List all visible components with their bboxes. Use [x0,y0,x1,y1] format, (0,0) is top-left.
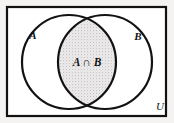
venn-diagram-canvas: A B A ∩ B U [0,0,174,123]
universe-label: U [156,100,165,112]
intersection-label: A ∩ B [72,56,102,68]
set-a-label: A [28,29,36,41]
venn-diagram-figure: A B A ∩ B U [0,0,174,123]
set-b-label: B [133,30,141,42]
